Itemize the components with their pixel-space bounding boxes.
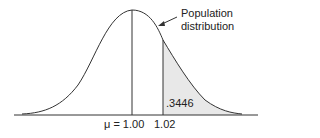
mean-label: μ = 1.00 — [104, 118, 144, 130]
arrow-head-icon — [158, 21, 165, 26]
area-label: .3446 — [166, 97, 194, 109]
annotation-label-line1: Population — [181, 7, 233, 19]
value-label: 1.02 — [154, 118, 175, 130]
annotation-label-line2: distribution — [181, 20, 234, 32]
